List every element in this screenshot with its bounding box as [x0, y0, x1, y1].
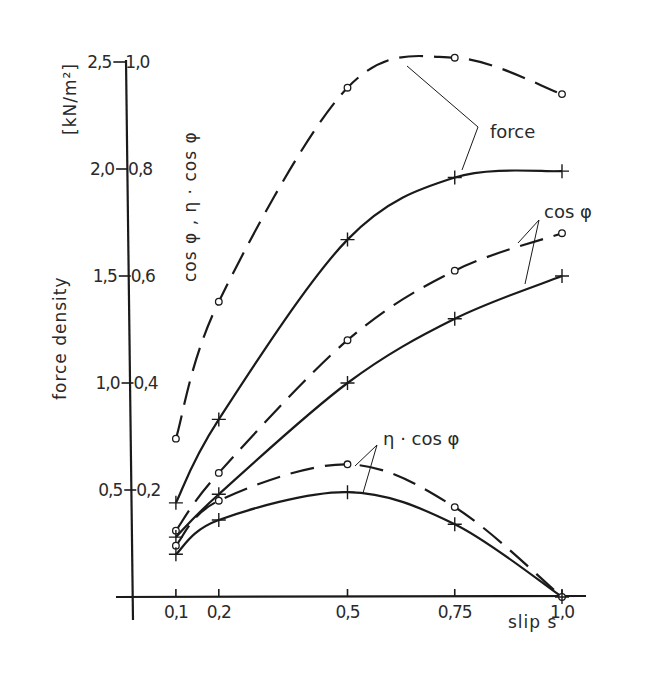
circle-marker-icon	[216, 298, 223, 305]
x-tick-label: 0,2	[207, 602, 231, 622]
circle-marker-icon	[451, 267, 458, 274]
plus-marker-icon	[555, 164, 569, 178]
circle-marker-icon	[451, 504, 458, 511]
y-axis-left-title: force density	[50, 276, 70, 400]
y-tick-label-right: 0,6	[131, 266, 155, 286]
plus-marker-icon	[212, 513, 226, 527]
series-line-0	[176, 56, 562, 439]
y-tick-label-left: 0,5	[98, 480, 122, 500]
y-tick-label-left: 1,0	[95, 373, 119, 393]
cos-leader-line	[518, 220, 539, 284]
series-line-2	[176, 233, 562, 530]
plus-marker-icon	[448, 517, 462, 531]
x-tick-label: 0,1	[164, 602, 188, 622]
force-label: force	[490, 121, 535, 142]
plus-marker-icon	[555, 269, 569, 283]
y-tick-label-right: 0,2	[136, 480, 160, 500]
circle-marker-icon	[216, 497, 223, 504]
y-tick-label-right: 0,8	[128, 159, 152, 179]
y-ticks: 0,50,21,00,41,50,62,00,82,51,0	[87, 52, 160, 500]
y-axis-left-unit: [kN/m²]	[60, 63, 80, 135]
circle-marker-icon	[344, 461, 351, 468]
x-tick-label: 0,5	[335, 602, 359, 622]
plus-marker-icon	[212, 412, 226, 426]
force-leader-line	[407, 66, 478, 170]
series-line-5	[176, 492, 562, 597]
circle-marker-icon	[344, 84, 351, 91]
y-axis-right-title: cos φ , η · cos φ	[180, 131, 200, 282]
circle-marker-icon	[451, 54, 458, 61]
plus-marker-icon	[448, 171, 462, 185]
annotation-eta-cos-phi: η · cos φ	[355, 428, 459, 493]
x-axis-title: slip s	[508, 612, 557, 632]
circle-marker-icon	[559, 230, 566, 237]
plus-marker-icon	[448, 312, 462, 326]
circle-marker-icon	[559, 91, 566, 98]
chart-canvas: 0,10,20,50,751,0 0,50,21,00,41,50,62,00,…	[0, 0, 646, 691]
y-tick-label-left: 2,0	[90, 159, 114, 179]
annotation-force: force	[407, 66, 535, 170]
cos-phi-label: cos φ	[544, 201, 592, 222]
plus-marker-icon	[169, 496, 183, 510]
series-line-3	[176, 276, 562, 537]
y-tick-label-right: 1,0	[125, 52, 149, 72]
x-tick-label: 0,75	[438, 602, 472, 622]
y-tick-label-left: 1,5	[93, 266, 117, 286]
eta-cos-phi-label: η · cos φ	[383, 428, 459, 449]
circle-marker-icon	[216, 470, 223, 477]
y-tick-label-left: 2,5	[87, 52, 111, 72]
circle-marker-icon	[344, 337, 351, 344]
series-line-4	[176, 464, 562, 597]
eta-leader-line	[355, 445, 377, 493]
plus-marker-icon	[341, 485, 355, 499]
circle-marker-icon	[173, 435, 180, 442]
y-axis	[126, 60, 133, 620]
x-axis	[116, 596, 586, 597]
y-tick-label-right: 0,4	[134, 373, 158, 393]
